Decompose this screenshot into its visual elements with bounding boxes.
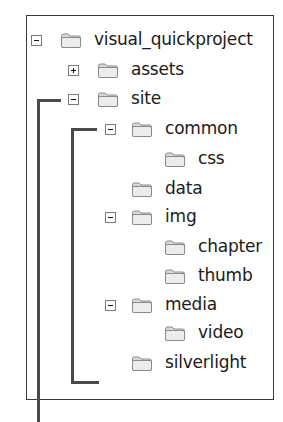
folder-icon (131, 121, 153, 138)
tree-item-label[interactable]: video (198, 322, 243, 342)
folder-icon (131, 181, 153, 198)
collapse-toggle-icon[interactable] (105, 300, 116, 311)
callout-inner-top (71, 128, 97, 131)
folder-icon (164, 239, 186, 256)
callout-outer-horizontal (37, 99, 61, 102)
tree-item-label[interactable]: visual_quickproject (94, 29, 253, 49)
tree-item-label[interactable]: site (131, 88, 161, 108)
tree-item-label[interactable]: silverlight (165, 352, 246, 372)
callout-inner-bottom (71, 381, 99, 384)
tree-item-label[interactable]: css (198, 148, 224, 168)
tree-item-label[interactable]: assets (131, 59, 184, 79)
collapse-toggle-icon[interactable] (105, 212, 116, 223)
collapse-toggle-icon[interactable] (105, 124, 116, 135)
folder-icon (164, 151, 186, 168)
callout-inner-vertical (71, 128, 74, 383)
folder-icon (97, 62, 119, 79)
folder-icon (131, 355, 153, 372)
tree-item-label[interactable]: chapter (198, 236, 262, 256)
collapse-toggle-icon[interactable] (31, 35, 42, 46)
tree-item-label[interactable]: common (165, 118, 238, 138)
expand-toggle-icon[interactable] (68, 65, 79, 76)
folder-icon (97, 91, 119, 108)
folder-icon (131, 209, 153, 226)
folder-icon (164, 268, 186, 285)
tree-item-label[interactable]: media (165, 294, 217, 314)
collapse-toggle-icon[interactable] (68, 94, 79, 105)
tree-item-label[interactable]: data (165, 178, 203, 198)
folder-icon (131, 297, 153, 314)
tree-item-label[interactable]: img (165, 206, 196, 226)
folder-icon (164, 325, 186, 342)
tree-item-label[interactable]: thumb (198, 265, 253, 285)
folder-icon (60, 32, 82, 49)
callout-outer-vertical (37, 99, 40, 422)
